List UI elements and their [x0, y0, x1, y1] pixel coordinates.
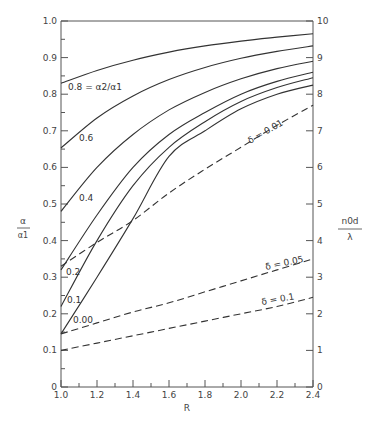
curve-label-delta-0.01: δ = 0.01	[246, 118, 285, 146]
curve-0.2	[61, 72, 313, 270]
y-tick-label: 0.8	[43, 89, 58, 99]
y-tick-label: 0	[51, 382, 57, 392]
curve-label-0.2: 0.2	[66, 267, 80, 277]
y-axis-label: α α1	[17, 216, 30, 240]
x-axis-label: R	[184, 403, 190, 413]
x-tick-label: 1.8	[198, 390, 213, 400]
curve-0.6	[61, 46, 313, 148]
x-tick-label: 2.2	[270, 390, 284, 400]
y2-tick-label: 6	[317, 162, 323, 172]
y2-tick-label: 1	[317, 345, 323, 355]
y-tick-label: 0.5	[43, 199, 57, 209]
y-tick-label: 0.1	[43, 345, 57, 355]
y2-axis-label: n0d λ	[338, 216, 362, 242]
y2-tick-label: 7	[317, 126, 323, 136]
y2-tick-label: 5	[317, 199, 323, 209]
y2-tick-label: 2	[317, 309, 323, 319]
y-tick-label: 1.0	[43, 16, 58, 26]
y2-tick-label: 10	[317, 16, 329, 26]
y-tick-label: 0.7	[43, 126, 57, 136]
curve-label-delta-0.1: δ = 0.1	[261, 291, 295, 307]
curve-label-0.00: 0.00	[73, 315, 93, 325]
y-tick-label: 0.6	[43, 162, 58, 172]
y2-axis-label-denominator: λ	[347, 232, 353, 242]
x-tick-label: 1.2	[90, 390, 104, 400]
x-tick-label: 1.4	[126, 390, 141, 400]
curve-label-0.8: 0.8 = α2/α1	[68, 82, 122, 92]
curve-0.1	[61, 78, 313, 307]
y-tick-label: 0.3	[43, 272, 57, 282]
y2-tick-label: 8	[317, 89, 323, 99]
y2-tick-label: 4	[317, 236, 323, 246]
axis-ticks	[61, 21, 313, 387]
x-tick-label: 1.6	[162, 390, 177, 400]
y-tick-label: 0.4	[43, 236, 58, 246]
plot-frame	[61, 21, 313, 387]
y2-axis-label-numerator: n0d	[341, 216, 358, 226]
y2-tick-label: 0	[317, 382, 323, 392]
curve-label-0.6: 0.6	[79, 133, 94, 143]
curve-label-0.1: 0.1	[67, 295, 81, 305]
curve-label-0.4: 0.4	[79, 193, 94, 203]
y2-tick-label: 3	[317, 272, 323, 282]
y-axis-label-denominator: α1	[18, 231, 28, 240]
chart: 1.01.21.41.61.82.02.22.400.10.20.30.40.5…	[0, 0, 373, 424]
x-tick-label: 2.0	[234, 390, 249, 400]
curve-label-delta-0.05: δ = 0.05	[264, 254, 304, 272]
curve-0.8-2-1	[61, 34, 313, 83]
y2-tick-label: 9	[317, 53, 323, 63]
y-axis-label-numerator: α	[20, 216, 26, 226]
curve--0.1	[61, 297, 313, 350]
y-tick-label: 0.9	[43, 53, 58, 63]
y-tick-label: 0.2	[43, 309, 57, 319]
